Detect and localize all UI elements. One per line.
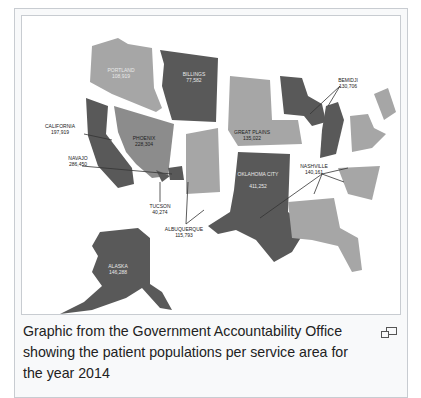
map-image[interactable]: PORTLAND 108,919 BILLINGS 77,582 CALIFOR… [21, 15, 401, 315]
svg-text:40,274: 40,274 [152, 209, 168, 215]
label-oklahoma-city: OKLAHOMA CITY [238, 171, 280, 177]
svg-text:286,450: 286,450 [69, 161, 87, 167]
region-nashville-me [374, 88, 396, 120]
region-navajo [168, 166, 184, 180]
service-area-map: PORTLAND 108,919 BILLINGS 77,582 CALIFOR… [22, 16, 400, 314]
svg-text:411,252: 411,252 [249, 183, 267, 189]
region-billings [160, 50, 218, 122]
svg-text:135,022: 135,022 [243, 135, 261, 141]
svg-text:228,304: 228,304 [135, 141, 153, 147]
figure-thumbnail: PORTLAND 108,919 BILLINGS 77,582 CALIFOR… [14, 8, 408, 398]
svg-text:130,706: 130,706 [339, 83, 357, 89]
region-nashville-south [288, 198, 362, 272]
svg-text:108,919: 108,919 [112, 73, 130, 79]
magnify-clip-icon [381, 327, 397, 339]
figure-caption: Graphic from the Government Accountabili… [23, 321, 367, 384]
region-nashville-carolinas [338, 166, 380, 200]
region-bemidji-mi [320, 102, 344, 158]
svg-text:77,582: 77,582 [186, 77, 202, 83]
region-nashville-ne [350, 114, 386, 152]
enlarge-button[interactable] [381, 325, 397, 337]
region-albuquerque [186, 128, 220, 194]
svg-text:140,161: 140,161 [305, 169, 323, 175]
svg-text:146,288: 146,288 [109, 269, 127, 275]
region-bemidji-mn-wi [280, 76, 326, 126]
svg-text:197,919: 197,919 [51, 129, 69, 135]
svg-text:115,793: 115,793 [175, 232, 193, 238]
